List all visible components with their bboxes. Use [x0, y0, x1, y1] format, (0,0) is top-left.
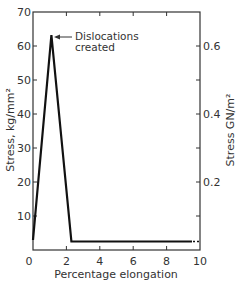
svg-text:40: 40	[17, 108, 31, 121]
svg-text:10: 10	[193, 255, 207, 268]
svg-text:8: 8	[163, 255, 170, 268]
y-axis-label: Stress, kg/mm²	[4, 88, 17, 172]
stress-curve	[33, 35, 192, 242]
svg-text:20: 20	[17, 176, 31, 189]
x-tick-labels: 0 2 4 6 8 10	[26, 255, 208, 268]
y-right-ticks	[196, 46, 200, 216]
stress-elongation-chart: 0 2 4 6 8 10 10 20 30 40 50 60 70 0.2 0.…	[0, 0, 241, 282]
svg-text:0: 0	[26, 255, 33, 268]
svg-text:10: 10	[17, 210, 31, 223]
y-tick-labels: 10 20 30 40 50 60 70	[17, 6, 31, 223]
y-right-tick-labels: 0.2 0.4 0.6	[203, 40, 221, 189]
svg-text:6: 6	[130, 255, 137, 268]
svg-text:created: created	[75, 41, 115, 53]
svg-text:2: 2	[63, 255, 70, 268]
x-axis-label: Percentage elongation	[54, 268, 178, 281]
svg-text:0.4: 0.4	[203, 108, 221, 121]
y-right-axis-label: Stress GN/m²	[224, 94, 237, 167]
x-ticks	[66, 246, 166, 250]
annotation-dislocations: Dislocations created	[54, 30, 139, 53]
svg-text:70: 70	[17, 6, 31, 19]
arrow-head-icon	[54, 35, 60, 40]
svg-text:60: 60	[17, 40, 31, 53]
svg-text:4: 4	[96, 255, 103, 268]
svg-text:50: 50	[17, 74, 31, 87]
plot-frame	[33, 12, 200, 250]
svg-text:30: 30	[17, 142, 31, 155]
svg-text:0.6: 0.6	[203, 40, 221, 53]
svg-text:0.2: 0.2	[203, 176, 221, 189]
